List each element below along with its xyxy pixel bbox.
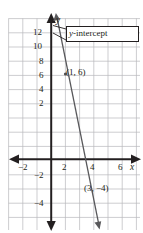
- x-tick-neg2: −2: [18, 163, 28, 172]
- x-tick-2: 2: [62, 163, 67, 172]
- y-tick-12: 12: [33, 28, 42, 37]
- y-axis-label: y: [56, 16, 60, 26]
- x-tick-6: 6: [118, 163, 123, 172]
- point-label-3-neg4: (3, −4): [84, 184, 109, 193]
- y-tick-neg4: −4: [34, 199, 44, 208]
- x-tick-4: 4: [90, 163, 95, 172]
- callout-rest-text: -intercept: [73, 28, 107, 38]
- y-tick-4: 4: [39, 85, 44, 94]
- y-tick-neg2: −2: [34, 171, 44, 180]
- graph-figure: 12 10 8 6 4 2 −2 −4 −2 2 4 6 x y (1, 6) …: [0, 0, 143, 233]
- grid-lines: [9, 18, 140, 230]
- y-tick-10: 10: [33, 42, 42, 51]
- y-intercept-callout-label: y-intercept: [69, 29, 107, 38]
- x-axis-label: x: [130, 163, 134, 173]
- y-axis: [47, 13, 56, 231]
- point-label-1-6: (1, 6): [66, 68, 86, 77]
- y-tick-8: 8: [39, 57, 44, 66]
- y-tick-6: 6: [39, 71, 44, 80]
- y-tick-2: 2: [39, 99, 44, 108]
